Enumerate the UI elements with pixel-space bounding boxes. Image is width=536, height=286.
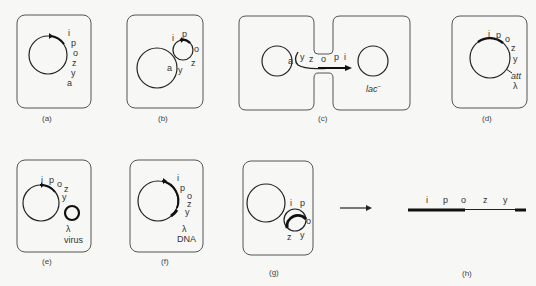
panel-caption: (f) [161,257,169,266]
gene-label: i [344,52,346,62]
gene-label: o [57,179,62,189]
gene-label: z [309,54,314,64]
gene-label: i [290,198,292,208]
panel-caption: (b) [158,114,168,123]
gene-label: p [182,29,187,39]
lac-minus-label: lac− [366,83,382,94]
gene-label: z [287,232,292,242]
gene-label: i [172,33,174,43]
lac-region-arc [287,215,306,228]
gene-label: i [488,29,490,39]
panel-caption: (e) [42,257,52,266]
chromosome-circle [470,38,510,78]
gene-label: y [503,195,508,205]
gene-label: z [483,195,488,205]
arrowhead-icon [366,205,372,211]
panel-caption: (a) [42,114,52,123]
chromosome-circle [247,184,285,222]
gene-label: o [321,54,326,64]
gene-label: z [511,43,516,53]
arrowhead-icon [49,33,53,39]
panel-caption: (c) [318,114,328,123]
gene-label: a [288,56,293,66]
gene-label: y [71,68,76,78]
panel-d: i p o z y att λ (d) [452,16,527,123]
gene-label: y [62,192,67,202]
arrowhead-icon [345,65,352,71]
gene-label: p [443,195,448,205]
gene-label: o [461,195,466,205]
cell-outline [243,161,313,255]
lac-region-arc [50,36,64,44]
gene-label: i [41,175,43,185]
gene-label: z [191,58,196,68]
lambda-label: λ [513,81,518,91]
gene-label: a [67,78,72,88]
gene-label: y [300,230,305,240]
lac-region-arc [162,181,178,208]
att-label: att [511,71,522,81]
gene-label: i [426,195,428,205]
dna-label: DNA [177,234,196,244]
gene-label: p [334,52,339,62]
gene-label: y [300,52,305,62]
lambda-dna-insert [171,210,177,216]
panel-f: i p o z y λ DNA (f) [130,160,203,266]
panel-g: i p o y z (g) [243,161,313,277]
gene-label: i [177,173,179,183]
gene-label: y [185,207,190,217]
gene-label: o [194,44,199,54]
gene-label: a [167,63,172,73]
transition-arrow [340,205,372,211]
lac-transduction-figure: i p o z y a (a) i p o z y a (b) a y z o … [0,0,536,286]
lambda-label: λ [66,224,71,234]
gene-label: p [300,198,305,208]
panel-caption: (h) [462,269,472,278]
gene-label: o [306,216,311,226]
gene-label: p [49,175,54,185]
gene-label: p [71,38,76,48]
panel-caption: (d) [482,114,492,123]
gene-label: o [505,34,510,44]
recipient-chromosome-circle [358,46,388,76]
panel-a: i p o z y a (a) [17,15,91,123]
lambda-label: λ [182,224,187,234]
gene-label: y [178,65,183,75]
panel-b: i p o z y a (b) [127,15,203,123]
panel-caption: (g) [269,268,279,277]
gene-label: i [68,28,70,38]
gene-label: p [180,183,185,193]
gene-label: y [513,54,518,64]
gene-label: z [72,58,77,68]
panel-h: i p o z y (h) [408,195,526,278]
lambda-virus-circle [65,206,79,220]
gene-label: p [496,30,501,40]
virus-label: virus [64,235,84,245]
gene-label: o [73,48,78,58]
panel-e: i p o z y λ virus (e) [17,160,91,266]
cell-outline [17,15,91,108]
panel-c: a y z o p i lac− (c) [239,16,410,123]
